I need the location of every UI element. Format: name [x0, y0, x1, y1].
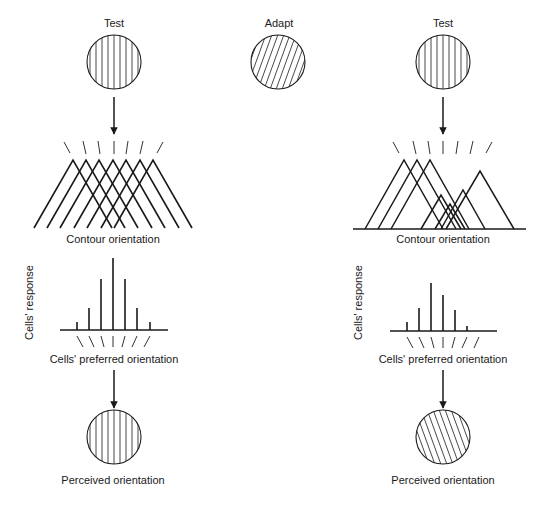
left-response-histogram: [60, 258, 168, 330]
right-preferred-orientation-ticks: [407, 337, 479, 348]
diagram-graphics: [0, 0, 544, 506]
right-x-axis-label: Cells' preferred orientation: [379, 353, 508, 365]
right-perceived-label: Perceived orientation: [391, 474, 494, 486]
left-perceived-grating: [87, 405, 141, 470]
right-orientation-ticks: [393, 141, 492, 154]
left-test-label: Test: [104, 17, 124, 29]
left-orientation-ticks: [64, 141, 163, 154]
right-y-axis-label: Cells' response: [352, 265, 364, 340]
left-preferred-orientation-ticks: [77, 336, 150, 347]
tilt-aftereffect-diagram: Test Adapt Test Contour orientation Cont…: [0, 0, 544, 506]
adapt-grating: [232, 29, 322, 95]
adapt-label: Adapt: [265, 17, 294, 29]
left-perceived-label: Perceived orientation: [61, 474, 164, 486]
right-response-histogram: [390, 283, 497, 331]
left-tuning-curves: [34, 160, 192, 228]
right-test-grating: [416, 30, 470, 95]
left-test-grating: [87, 30, 141, 95]
left-contour-label: Contour orientation: [66, 233, 160, 245]
left-x-axis-label: Cells' preferred orientation: [50, 353, 179, 365]
right-tuning-curves: [365, 160, 514, 229]
right-perceived-grating: [395, 404, 485, 470]
left-y-axis-label: Cells' response: [23, 265, 35, 340]
right-test-label: Test: [433, 17, 453, 29]
right-contour-label: Contour orientation: [396, 233, 490, 245]
